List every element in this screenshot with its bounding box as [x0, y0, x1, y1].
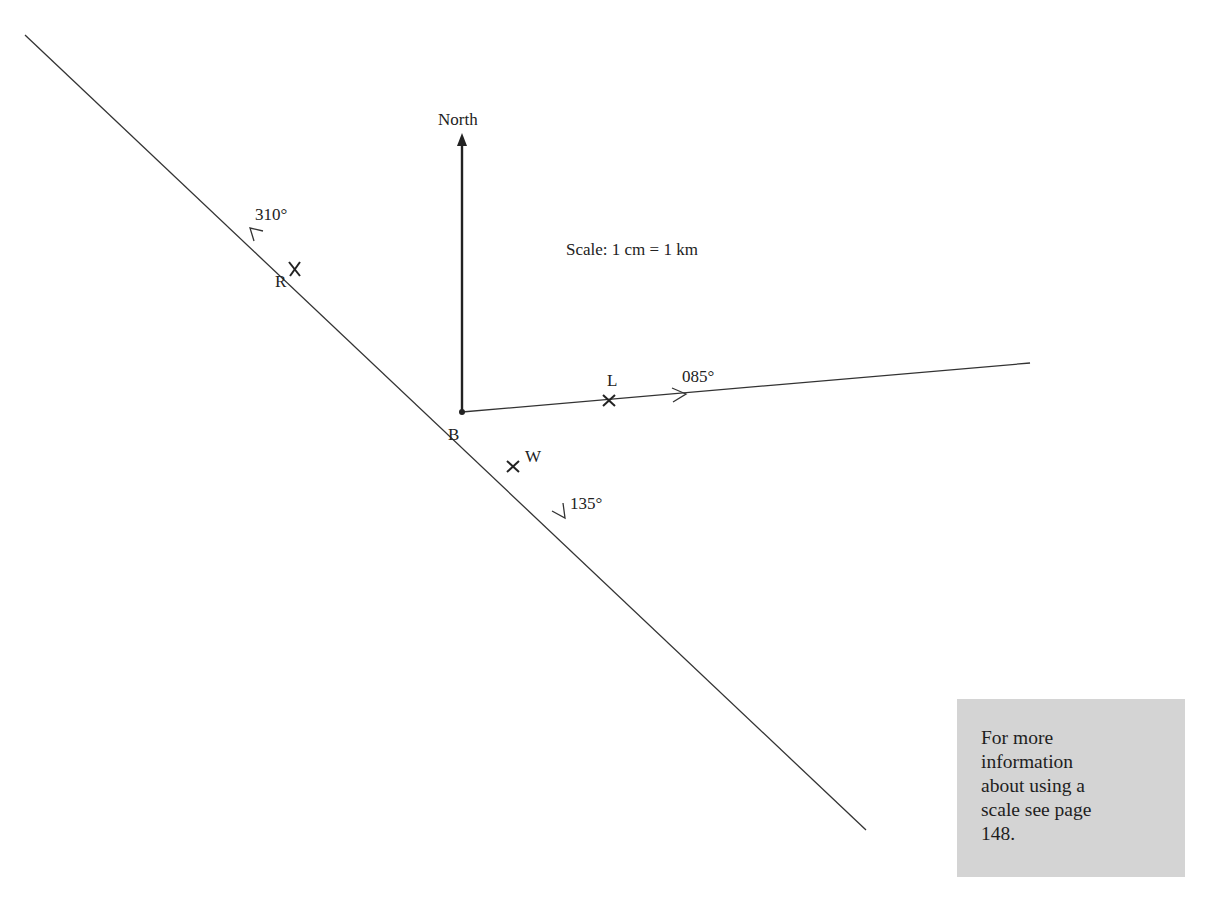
info-line: 148.	[981, 822, 1185, 846]
arrowhead-310-icon	[250, 228, 263, 241]
arrowhead-135-icon	[552, 503, 565, 518]
bearing-085-label: 085°	[682, 368, 714, 385]
cross-mark-l-icon	[603, 395, 615, 406]
info-line: about using a	[981, 774, 1185, 798]
info-line: information	[981, 750, 1185, 774]
info-line: scale see page	[981, 798, 1185, 822]
bearing-310-label: 310°	[255, 206, 287, 223]
scale-label: Scale: 1 cm = 1 km	[566, 241, 698, 258]
point-w-name-label: W	[525, 448, 541, 465]
bearing-line-310-135	[25, 35, 866, 830]
origin-b-label: B	[448, 426, 459, 443]
north-label: North	[438, 111, 478, 128]
info-line: For more	[981, 726, 1185, 750]
point-l-label: L	[607, 372, 617, 389]
info-box: For more information about using a scale…	[957, 699, 1185, 877]
arrowhead-085-icon	[672, 388, 686, 402]
point-r-label: R	[275, 273, 286, 290]
point-w-label: 135°	[570, 495, 602, 512]
origin-point	[459, 409, 465, 415]
bearing-line-085	[462, 363, 1030, 412]
cross-mark-r-icon	[289, 262, 300, 276]
cross-mark-w-icon	[507, 461, 519, 472]
north-arrowhead-icon	[457, 133, 467, 146]
